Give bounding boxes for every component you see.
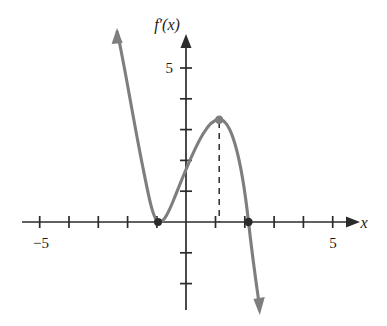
x-intercept-point xyxy=(244,218,252,226)
plot-canvas: f′(x) x 5 −5 5 xyxy=(0,0,387,326)
graph-figure: f′(x) x 5 −5 5 xyxy=(0,0,387,326)
x-axis-label: x xyxy=(359,214,367,231)
x-tick-label-neg5: −5 xyxy=(33,235,49,251)
y-axis-label: f′(x) xyxy=(154,16,180,34)
curve-upper-left-arrow-icon xyxy=(112,28,123,44)
local-minimum-point xyxy=(154,218,162,226)
x-tick-label-5: 5 xyxy=(329,235,337,251)
x-axis-arrow-icon xyxy=(346,217,360,228)
curve-f-prime xyxy=(112,28,265,315)
curve-lower-right-arrow-icon xyxy=(253,297,264,315)
local-maximum-point xyxy=(215,116,223,124)
curve-path xyxy=(117,32,259,303)
x-axis xyxy=(22,216,360,228)
y-axis-arrow-icon xyxy=(181,34,192,48)
y-tick-label-5: 5 xyxy=(166,60,174,76)
